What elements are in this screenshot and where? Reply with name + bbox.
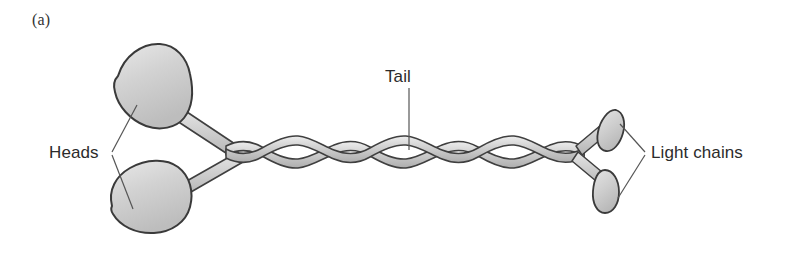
- myosin-diagram: [0, 0, 800, 278]
- lower-light-chain-lobe: [593, 170, 619, 213]
- label-heads: Heads: [49, 143, 99, 163]
- myosin-figure: (a): [0, 0, 800, 278]
- label-tail: Tail: [385, 67, 411, 87]
- light-chains-bracket-upper-leg: [620, 124, 645, 152]
- heads-group: [111, 44, 192, 233]
- upper-light-chain-lobe: [597, 110, 624, 151]
- label-light-chains: Light chains: [651, 143, 743, 163]
- light-chains-group: [572, 110, 624, 213]
- lower-head: [111, 161, 192, 233]
- coiled-coil-tail: [226, 136, 584, 168]
- upper-head: [114, 44, 192, 128]
- light-chains-bracket-lower-leg: [618, 155, 645, 198]
